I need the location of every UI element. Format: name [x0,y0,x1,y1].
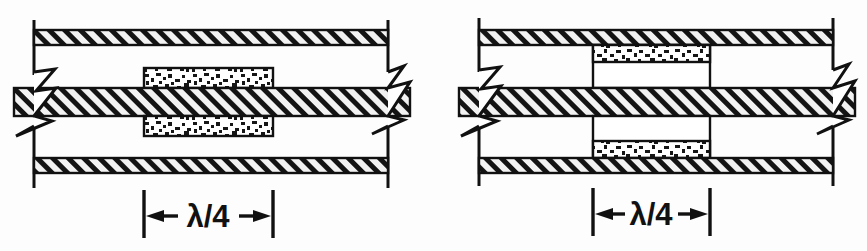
right-diagram-svg: λ/4 [433,0,867,251]
dimension-label: λ/4 [186,199,230,234]
figure-root: λ/4 [0,0,867,251]
lower-dielectric-block [593,141,710,158]
dimension-arrow-right-icon [239,210,271,222]
dimension-label: λ/4 [629,197,673,232]
upper-dielectric-block [593,45,710,62]
panel-left-centered-dielectric: λ/4 [0,0,434,251]
center-conductor-bar [459,88,855,116]
bottom-wall-bar [34,158,388,173]
dimension-arrow-left-icon [146,210,178,222]
lower-dielectric-block [144,116,273,136]
dimension-arrow-left-icon [595,208,625,220]
top-wall-bar [34,30,388,45]
center-conductor-bar [14,88,410,116]
dimension-arrow-right-icon [678,208,708,220]
top-wall-bar [479,30,833,45]
panel-right-wall-mounted-dielectric: λ/4 [433,0,867,251]
left-diagram-svg: λ/4 [0,0,434,251]
bottom-wall-bar [479,158,833,173]
upper-dielectric-block [144,68,273,88]
